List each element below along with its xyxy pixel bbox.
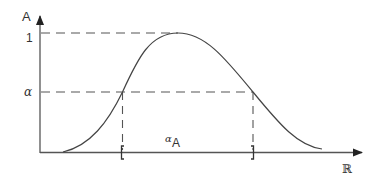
y-tick-one: 1: [26, 31, 33, 45]
x-axis-label: ℝ: [342, 162, 353, 176]
alpha-cut-diagram: A 1 α α A ℝ: [0, 0, 381, 179]
y-axis-label: A: [22, 9, 31, 24]
y-tick-alpha: α: [24, 85, 32, 99]
alpha-cut-label: α: [165, 133, 172, 144]
alpha-cut-subscript: A: [172, 136, 180, 150]
